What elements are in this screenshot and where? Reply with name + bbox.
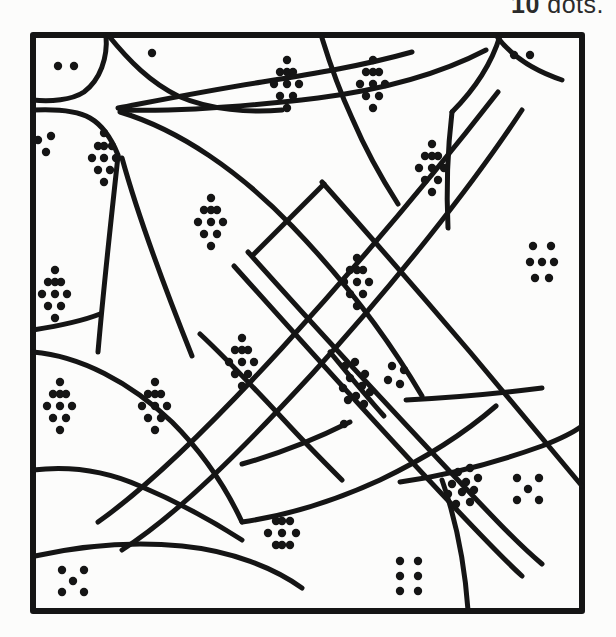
dot xyxy=(526,258,534,266)
dot xyxy=(428,152,436,160)
dot xyxy=(510,51,518,59)
dot xyxy=(466,498,474,506)
dot xyxy=(434,176,442,184)
dot xyxy=(62,414,70,422)
dot xyxy=(444,490,452,498)
dot xyxy=(56,402,64,410)
boundary-path xyxy=(120,50,486,110)
boundary-path xyxy=(33,314,100,330)
boundary-path xyxy=(108,35,282,111)
dot xyxy=(51,278,59,286)
dot xyxy=(538,258,546,266)
dot xyxy=(207,194,215,202)
dot-cluster xyxy=(526,242,558,282)
dot xyxy=(466,464,474,472)
dot xyxy=(88,154,96,162)
dot xyxy=(278,517,286,525)
dot xyxy=(43,402,51,410)
dot xyxy=(470,486,478,494)
dot xyxy=(369,56,377,64)
dot xyxy=(369,80,377,88)
dot xyxy=(360,400,368,408)
dot xyxy=(414,572,422,580)
boundary-path xyxy=(122,158,192,356)
dot xyxy=(381,80,389,88)
dot xyxy=(250,358,258,366)
dot xyxy=(286,517,294,525)
dot xyxy=(421,176,429,184)
dot xyxy=(138,402,146,410)
dot xyxy=(341,362,349,370)
dot xyxy=(207,218,215,226)
boundary-path xyxy=(200,334,342,480)
dot xyxy=(396,380,404,388)
dot xyxy=(100,142,108,150)
boundary-path xyxy=(33,352,242,522)
dot xyxy=(63,290,71,298)
dot xyxy=(531,274,539,282)
dot xyxy=(292,529,300,537)
dot xyxy=(238,334,246,342)
dot xyxy=(414,587,422,595)
dot xyxy=(535,496,543,504)
boundary-path xyxy=(33,35,106,101)
dot xyxy=(356,80,364,88)
dot-cluster xyxy=(340,420,348,428)
dot xyxy=(415,164,423,172)
dot xyxy=(454,468,462,476)
dot xyxy=(340,278,348,286)
dot xyxy=(545,274,553,282)
dot xyxy=(225,358,233,366)
dot xyxy=(513,496,521,504)
dot xyxy=(414,557,422,565)
dot xyxy=(351,358,359,366)
dot xyxy=(339,384,347,392)
dot xyxy=(295,80,303,88)
dot xyxy=(108,142,116,150)
dot xyxy=(100,129,108,137)
dot xyxy=(283,68,291,76)
dot xyxy=(352,392,360,400)
dot xyxy=(163,402,171,410)
dot xyxy=(56,390,64,398)
dot xyxy=(359,290,367,298)
dot xyxy=(207,242,215,250)
dot xyxy=(238,382,246,390)
dot xyxy=(112,154,120,162)
dot xyxy=(428,188,436,196)
dot-puzzle-figure xyxy=(0,0,616,637)
dot xyxy=(38,290,46,298)
dot-cluster xyxy=(148,49,156,57)
dot xyxy=(440,164,448,172)
dot xyxy=(283,104,291,112)
dot xyxy=(448,480,456,488)
dot xyxy=(396,572,404,580)
diagonal-band-lines xyxy=(98,92,582,576)
dot xyxy=(238,346,246,354)
dot xyxy=(56,378,64,386)
dot-cluster xyxy=(138,378,171,434)
band-inner-path xyxy=(248,252,542,564)
dot xyxy=(358,382,366,390)
dot-cluster xyxy=(194,194,227,250)
dot xyxy=(428,164,436,172)
dot xyxy=(238,358,246,366)
dot xyxy=(47,132,55,140)
dot xyxy=(151,426,159,434)
dot xyxy=(428,140,436,148)
dot xyxy=(54,62,62,70)
dot xyxy=(362,92,370,100)
dot xyxy=(58,566,66,574)
dot xyxy=(144,414,152,422)
dot xyxy=(200,230,208,238)
dot xyxy=(207,206,215,214)
dot xyxy=(70,62,78,70)
dot xyxy=(94,166,102,174)
dot xyxy=(524,485,532,493)
boundary-path xyxy=(254,184,324,254)
dot xyxy=(219,218,227,226)
dot xyxy=(51,290,59,298)
dot xyxy=(231,370,239,378)
dot-cluster xyxy=(38,266,71,322)
dot xyxy=(100,154,108,162)
